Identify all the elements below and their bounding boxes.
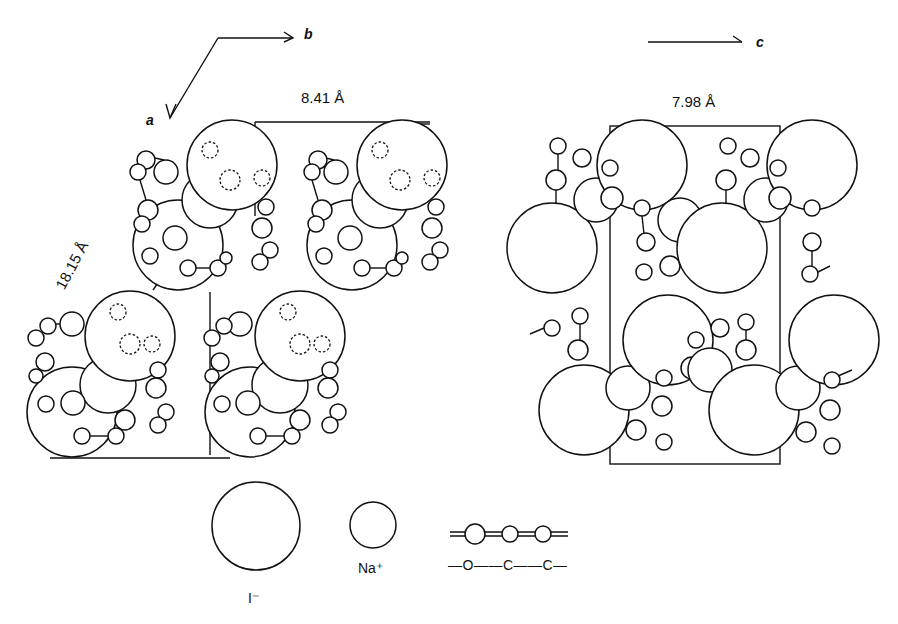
legend-sodium-symbol bbox=[350, 502, 396, 548]
cell-edge-c-label: 7.98 Å bbox=[672, 93, 715, 110]
right-column-bottom bbox=[530, 295, 879, 455]
complex-unit-bottom-left bbox=[27, 291, 175, 457]
axis-a-label: a bbox=[146, 112, 154, 128]
axis-arrow-c bbox=[648, 36, 742, 42]
legend-sodium-label: Na⁺ bbox=[358, 560, 383, 576]
legend-iodide-label: I⁻ bbox=[248, 590, 259, 606]
complex-unit-top-right bbox=[304, 120, 448, 290]
axis-c-label: c bbox=[756, 34, 764, 50]
complex-unit-bottom-right bbox=[204, 291, 346, 457]
complex-unit-top-left bbox=[130, 120, 278, 290]
legend-iodide-symbol bbox=[212, 482, 300, 570]
crystal-structure-figure bbox=[0, 0, 898, 624]
legend-chain-symbol bbox=[450, 524, 568, 544]
legend-chain-label: —O——C——C— bbox=[448, 557, 568, 573]
axis-arrows-ab bbox=[166, 32, 293, 118]
axis-b-label: b bbox=[304, 26, 313, 42]
right-column-top bbox=[507, 120, 857, 293]
cell-edge-b-label: 8.41 Å bbox=[301, 89, 344, 106]
